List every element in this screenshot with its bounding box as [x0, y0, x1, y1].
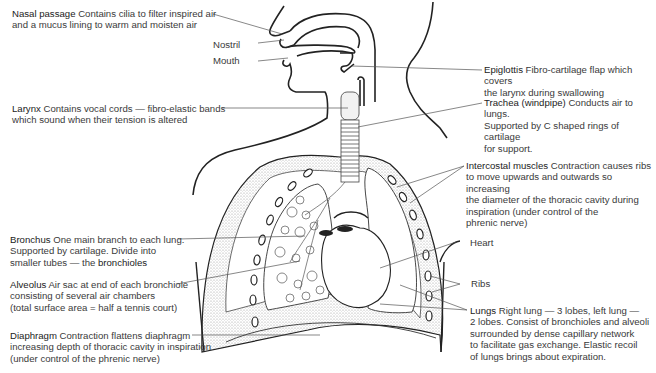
label-heart: Heart	[470, 237, 493, 248]
label-nasal-passage: Nasal passage Contains cilia to filter i…	[12, 8, 216, 31]
label-alveolus: Alveolus Air sac at end of each bronchio…	[10, 279, 188, 313]
label-trachea: Trachea (windpipe) Conducts air to lungs…	[484, 97, 656, 154]
label-mouth: Mouth	[213, 55, 240, 66]
label-larynx: Larynx Contains vocal cords — fibro-elas…	[12, 103, 225, 126]
label-lungs: Lungs Right lung — 3 lobes, left lung — …	[470, 305, 649, 362]
label-epiglottis: Epiglottis Fibro-cartilage flap which co…	[484, 64, 656, 98]
label-ribs: Ribs	[471, 278, 490, 289]
label-diaphragm: Diaphragm Contraction flattens diaphragm…	[10, 330, 211, 364]
label-bronchus: Bronchus One main branch to each lung. S…	[10, 234, 184, 268]
label-nostril: Nostril	[213, 39, 240, 50]
larynx-shape	[341, 92, 359, 120]
label-intercostal-muscles: Intercostal muscles Contraction causes r…	[466, 160, 656, 228]
trachea	[341, 120, 359, 182]
